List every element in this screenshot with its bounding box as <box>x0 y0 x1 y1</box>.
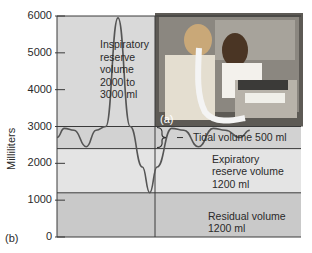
panel-label-b: (b) <box>5 232 18 245</box>
y-tick-label-1000: 1000 <box>12 193 52 205</box>
label-tidal-volume: Tidal volume 500 ml <box>193 131 287 144</box>
label-residual-volume: Residual volume 1200 ml <box>208 210 286 235</box>
y-tick-label-3000: 3000 <box>12 120 52 132</box>
panel-label-a: (a) <box>160 113 173 125</box>
y-tick-label-4000: 4000 <box>12 83 52 95</box>
y-tick-label-5000: 5000 <box>12 46 52 58</box>
label-inspiratory-reserve-volume: Inspiratory reserve volume 2000 to 3000 … <box>100 38 149 101</box>
y-tick-label-2000: 2000 <box>12 156 52 168</box>
spirometer-photo: (a) <box>155 13 303 127</box>
label-expiratory-reserve-volume: Expiratory reserve volume 1200 ml <box>212 153 284 191</box>
y-tick-label-6000: 6000 <box>12 9 52 21</box>
